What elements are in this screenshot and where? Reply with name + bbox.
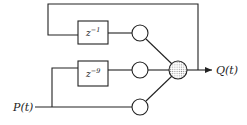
feedback-wire [48, 4, 198, 70]
output-label: Q(t) [216, 64, 238, 77]
input-label: P(t) [12, 101, 33, 114]
branch-wire-z9 [52, 68, 78, 107]
block-diagram: z−1 z−9 P(t) Q(t) [0, 0, 247, 125]
weight-node-1 [132, 25, 148, 41]
wire-node3-to-sum [146, 76, 172, 101]
delay-block-z-9: z−9 [78, 61, 108, 86]
delay-block-z-1: z−1 [78, 21, 108, 44]
delay-exponent: −1 [91, 26, 101, 34]
weight-node-2 [132, 62, 148, 78]
delay-exponent: −9 [91, 67, 101, 75]
summation-node [169, 61, 187, 79]
wire-node1-to-sum [146, 39, 172, 64]
weight-node-3 [132, 99, 148, 115]
